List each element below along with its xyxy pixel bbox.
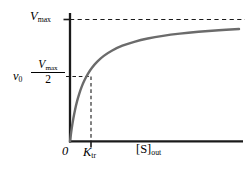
v-zero-axis-label: v0 — [13, 70, 22, 83]
saturation-kinetics-figure: Vmax v0 Vmax 2 0 Ktr [S]out — [0, 0, 250, 170]
ktr-tick-label: Ktr — [83, 146, 96, 159]
substrate-axis-label: [S]out — [136, 143, 161, 156]
v-zero-label-subscript: 0 — [19, 75, 23, 84]
vmax-label-subscript: max — [38, 15, 51, 24]
half-vmax-numerator: Vmax — [31, 59, 65, 72]
half-vmax-fraction-label: Vmax 2 — [31, 59, 65, 85]
half-vmax-denominator: 2 — [31, 73, 65, 86]
substrate-label-base: [S] — [136, 142, 151, 156]
saturation-curve — [70, 29, 239, 141]
half-vmax-numerator-subscript: max — [45, 64, 57, 72]
substrate-label-subscript: out — [151, 148, 161, 157]
origin-label: 0 — [62, 145, 68, 158]
plot-canvas — [0, 0, 250, 170]
vmax-label-base: V — [30, 9, 38, 23]
ktr-label-subscript: tr — [91, 151, 96, 160]
v-zero-label-base: v — [13, 69, 19, 83]
vmax-axis-label: Vmax — [30, 10, 51, 23]
